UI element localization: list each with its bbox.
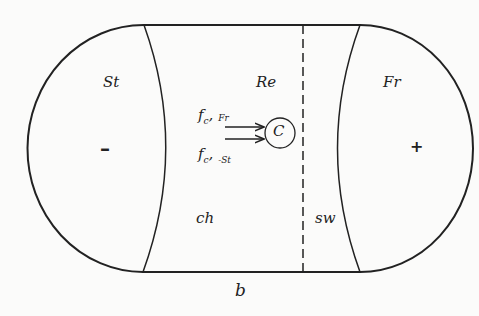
outer-boundary <box>27 25 473 272</box>
minus-sign: – <box>100 138 110 158</box>
diagram: St – Re Fr + ch sw b C fc, Fr fc, -St <box>0 0 479 316</box>
plus-sign: + <box>410 139 423 155</box>
label-ch: ch <box>196 211 214 226</box>
label-st: St <box>103 75 119 90</box>
right-boundary-arc <box>338 25 361 272</box>
label-fc-fr: fc, Fr <box>198 107 229 123</box>
left-boundary-arc <box>143 25 166 272</box>
diagram-shapes <box>0 0 479 316</box>
label-b: b <box>235 282 246 299</box>
label-sw: sw <box>315 211 336 226</box>
label-re: Re <box>256 75 276 90</box>
label-fc-st: fc, -St <box>198 146 231 162</box>
node-label: C <box>273 124 284 139</box>
label-fr: Fr <box>383 75 401 90</box>
